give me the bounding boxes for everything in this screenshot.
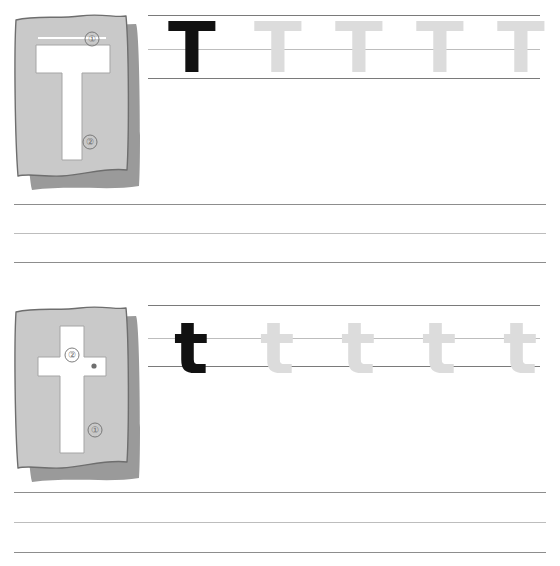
stroke-marker-2-label: ②	[68, 351, 76, 360]
lowercase-section: ② ① t t t t t	[0, 0, 560, 566]
blank-writing-line[interactable]	[14, 552, 546, 553]
blank-writing-line[interactable]	[14, 522, 546, 523]
lowercase-model-letter: t	[174, 312, 208, 384]
blank-writing-line[interactable]	[14, 492, 546, 493]
lowercase-letter-card: ② ①	[6, 300, 142, 482]
lowercase-trace-letter[interactable]: t	[422, 312, 456, 384]
stroke-marker-1-label: ①	[91, 426, 99, 435]
stroke-2-arrow-head	[91, 363, 96, 368]
worksheet-page: ① ② T T T T T	[0, 0, 560, 566]
lowercase-trace-letter[interactable]: t	[503, 312, 537, 384]
lowercase-trace-letter[interactable]: t	[260, 312, 294, 384]
lowercase-trace-letter[interactable]: t	[341, 312, 375, 384]
lowercase-card-graphic	[6, 300, 142, 482]
